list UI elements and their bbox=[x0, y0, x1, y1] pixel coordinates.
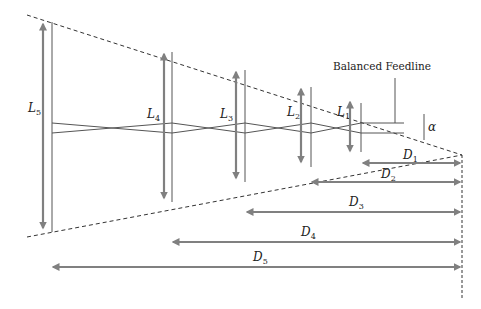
label-D4: D4 bbox=[300, 225, 316, 241]
alpha-label: α bbox=[428, 120, 436, 134]
label-L5: L5 bbox=[27, 101, 41, 117]
label-L4: L4 bbox=[146, 107, 160, 123]
label-D5: D5 bbox=[252, 250, 268, 266]
lpda-diagram: Balanced Feedline α L5 L4 L3 L2 L1 D1 D2… bbox=[0, 0, 481, 309]
label-D3: D3 bbox=[348, 195, 364, 211]
label-D1: D1 bbox=[402, 148, 418, 164]
label-L2: L2 bbox=[286, 105, 300, 121]
label-D2: D2 bbox=[380, 167, 396, 183]
diagram-svg: Balanced Feedline α L5 L4 L3 L2 L1 D1 D2… bbox=[0, 0, 481, 309]
label-L1: L1 bbox=[336, 105, 350, 121]
feedline-label: Balanced Feedline bbox=[333, 60, 431, 72]
crossed-feedline bbox=[52, 78, 404, 133]
label-L3: L3 bbox=[219, 107, 233, 123]
